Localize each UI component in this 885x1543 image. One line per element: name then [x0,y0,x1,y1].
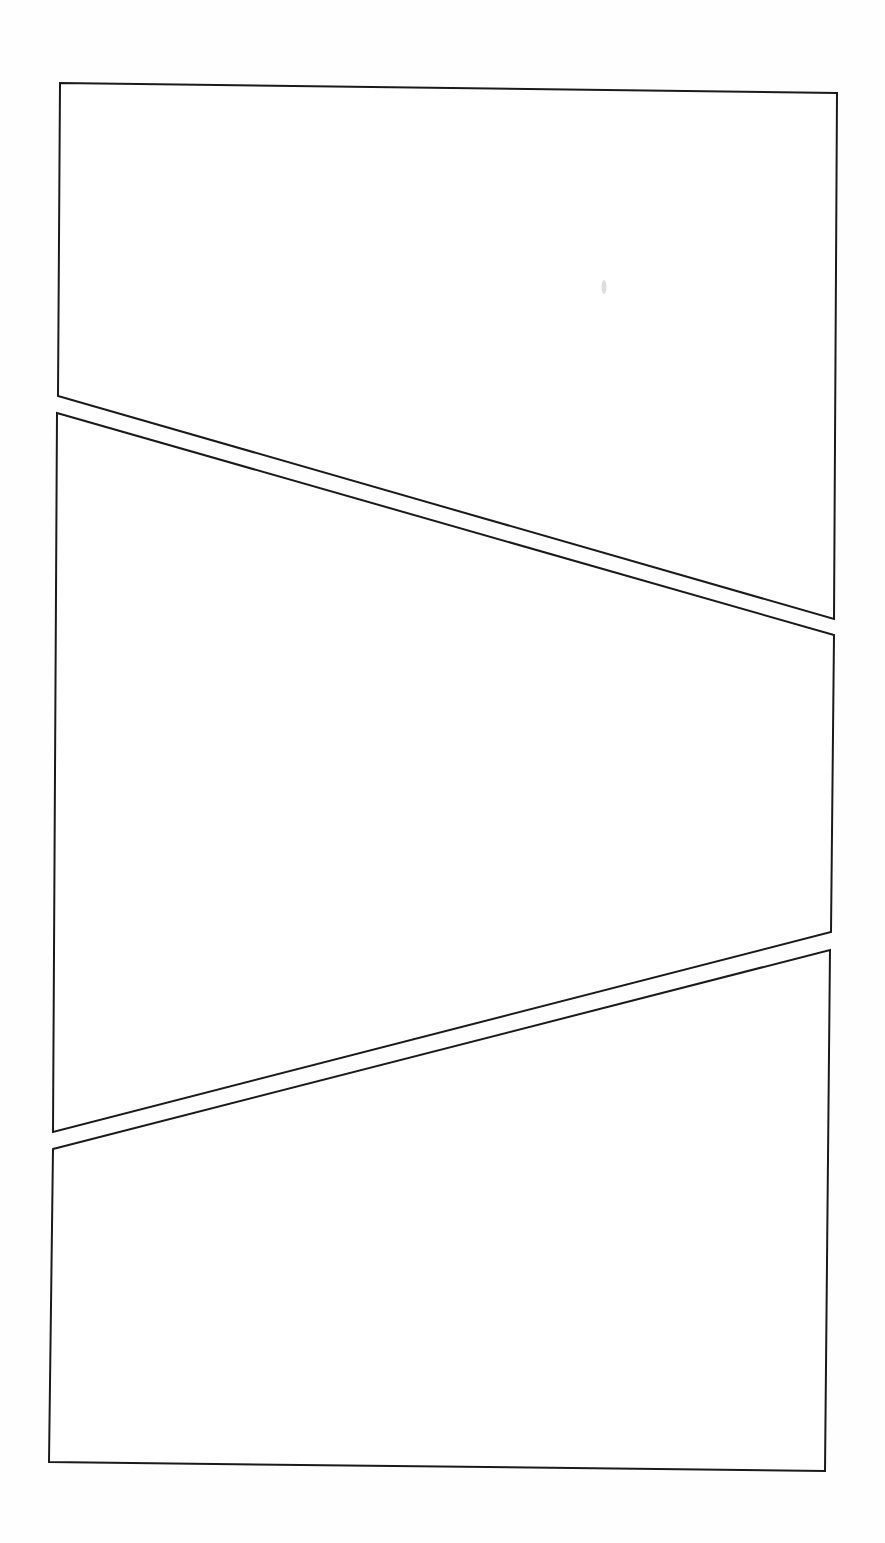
scan-smudge [602,280,607,294]
comic-page [0,0,885,1543]
panel-layout [0,0,885,1543]
